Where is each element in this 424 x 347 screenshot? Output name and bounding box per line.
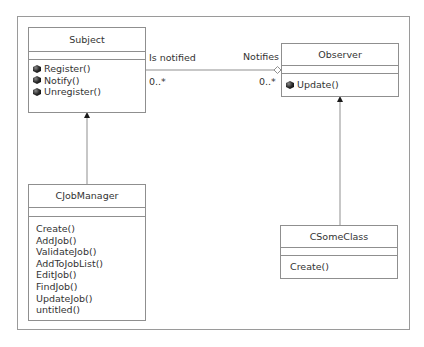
observer-multiplicity-label: 0..*: [259, 76, 276, 87]
operation-updatejob[interactable]: UpdateJob(): [36, 293, 145, 305]
operation-addjob[interactable]: AddJob(): [36, 235, 145, 247]
aggregation-diamond-icon: [274, 67, 281, 74]
operation-editjob[interactable]: EditJob(): [36, 269, 145, 281]
operation-unregister[interactable]: Unregister(): [33, 86, 145, 98]
operation-findjob[interactable]: FindJob(): [36, 281, 145, 293]
operation-create[interactable]: Create(): [36, 223, 145, 235]
class-name: CSomeClass: [281, 226, 397, 247]
operations-compartment: Create() AddJob() ValidateJob() AddToJob…: [29, 217, 145, 316]
class-name: CJobManager: [29, 185, 145, 207]
operation-register[interactable]: Register(): [33, 63, 145, 75]
class-observer[interactable]: Observer Update(): [281, 43, 399, 97]
method-gem-icon: [286, 81, 294, 89]
class-name: Subject: [29, 28, 145, 51]
operation-notify[interactable]: Notify(): [33, 75, 145, 87]
method-gem-icon: [33, 88, 41, 96]
attributes-compartment: [29, 51, 145, 60]
operation-update[interactable]: Update(): [286, 79, 398, 91]
subject-multiplicity-label: 0..*: [149, 76, 166, 87]
method-gem-icon: [33, 65, 41, 73]
class-subject[interactable]: Subject Register() Notify() Unregister(): [28, 27, 146, 113]
method-gem-icon: [33, 76, 41, 84]
attributes-compartment: [29, 207, 145, 217]
operation-addtojoblist[interactable]: AddToJobList(): [36, 258, 145, 270]
observer-role-label: Notifies: [243, 51, 279, 62]
operations-compartment: Register() Notify() Unregister(): [29, 60, 145, 98]
attributes-compartment: [281, 247, 397, 256]
operation-create[interactable]: Create(): [290, 261, 397, 273]
class-csomeclass[interactable]: CSomeClass Create(): [280, 225, 398, 279]
operations-compartment: Create(): [281, 256, 397, 273]
operation-untitled[interactable]: untitled(): [36, 304, 145, 316]
subject-role-label: Is notified: [149, 52, 196, 63]
class-cjobmanager[interactable]: CJobManager Create() AddJob() ValidateJo…: [28, 184, 146, 321]
operations-compartment: Update(): [282, 74, 398, 91]
class-name: Observer: [282, 44, 398, 65]
operation-validatejob[interactable]: ValidateJob(): [36, 246, 145, 258]
attributes-compartment: [282, 65, 398, 74]
